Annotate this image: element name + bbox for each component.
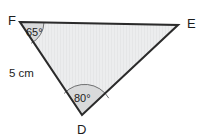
triangle-diagram-svg: F E D 65° 80° 5 cm — [0, 0, 208, 138]
triangle-figure: F E D 65° 80° 5 cm — [0, 0, 208, 138]
vertex-label-f: F — [8, 13, 16, 28]
side-label-fd: 5 cm — [9, 67, 34, 79]
triangle-interior-texture — [20, 22, 178, 115]
angle-label-f: 65° — [26, 26, 43, 38]
angle-label-d: 80° — [74, 92, 91, 104]
vertex-label-d: D — [77, 122, 86, 137]
vertex-label-e: E — [187, 16, 196, 31]
